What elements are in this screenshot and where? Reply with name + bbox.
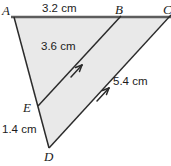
vertex-label-c: C xyxy=(163,3,171,16)
vertex-label-b: B xyxy=(115,3,123,16)
geometry-figure: A B C D E 3.2 cm 3.6 cm 5.4 cm 1.4 cm xyxy=(0,0,171,166)
measure-label-ed: 1.4 cm xyxy=(2,124,37,136)
measure-label-eb: 3.6 cm xyxy=(41,41,76,53)
vertex-label-e: E xyxy=(23,101,31,114)
measure-label-dc: 5.4 cm xyxy=(113,76,148,88)
measure-label-ab: 3.2 cm xyxy=(42,3,77,15)
vertex-label-a: A xyxy=(2,4,10,17)
vertex-label-d: D xyxy=(44,150,53,163)
